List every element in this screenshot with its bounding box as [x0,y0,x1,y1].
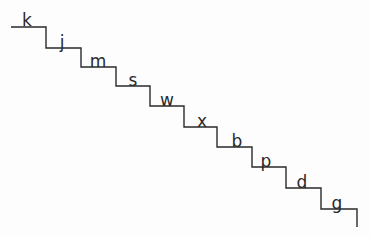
step-letter-k: k [22,12,32,29]
step-letter-w: w [160,92,174,109]
step-letter-m: m [90,53,107,70]
step-letter-p: p [261,153,272,170]
staircase-diagram [0,0,370,236]
step-letter-x: x [197,113,207,130]
step-letter-d: d [297,174,308,191]
staircase-line [11,27,357,227]
step-letter-j: j [60,34,65,51]
step-letter-g: g [332,195,343,212]
step-letter-s: s [129,72,138,89]
step-letter-b: b [232,133,243,150]
